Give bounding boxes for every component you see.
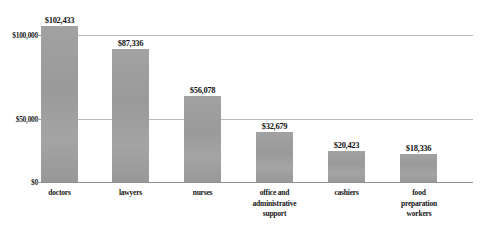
x-axis-label-line: doctors xyxy=(29,188,90,199)
x-axis-label-line: cashiers xyxy=(316,188,377,199)
x-axis-label-line: lawyers xyxy=(100,188,161,199)
y-axis-tick-0 xyxy=(35,182,41,183)
bar-food-preparation-workers[interactable] xyxy=(400,154,437,182)
bar-value-nurses: $56,078 xyxy=(172,85,233,95)
bar-chart: $100,000 $50,000 $0 $102,433 $87,336 $56… xyxy=(0,0,481,228)
bar-cashiers[interactable] xyxy=(328,151,365,182)
x-axis-label-food-preparation-workers: food preparation workers xyxy=(383,188,455,220)
bar-lawyers[interactable] xyxy=(112,49,149,182)
x-axis-label-line: food xyxy=(383,188,455,199)
y-axis-tick-label-50000: $50,000 xyxy=(0,115,38,124)
y-axis-tick-label-0: $0 xyxy=(0,178,38,187)
y-axis-tick-label-100000: $100,000 xyxy=(0,31,38,40)
x-axis-label-line: workers xyxy=(383,209,455,220)
x-axis-label-line: administrative xyxy=(237,199,312,210)
x-axis-label-line: office and xyxy=(237,188,312,199)
x-axis-line xyxy=(37,182,473,183)
bar-value-cashiers: $20,423 xyxy=(316,140,377,150)
plot-area: $102,433 $87,336 $56,078 $32,679 $20,423… xyxy=(41,14,473,182)
clipped-text-artifact xyxy=(0,0,481,9)
bar-value-food-preparation-workers: $18,336 xyxy=(388,143,449,153)
bar-office-and-administrative-support[interactable] xyxy=(256,132,293,182)
bar-value-lawyers: $87,336 xyxy=(100,38,161,48)
gridline-100000 xyxy=(41,35,473,36)
x-axis-label-lawyers: lawyers xyxy=(100,188,161,199)
x-axis-label-nurses: nurses xyxy=(172,188,233,199)
x-axis-label-cashiers: cashiers xyxy=(316,188,377,199)
bar-doctors[interactable] xyxy=(41,26,78,182)
x-axis-label-office-and-administrative-support: office and administrative support xyxy=(237,188,312,220)
x-axis-label-doctors: doctors xyxy=(29,188,90,199)
bar-value-office-and-administrative-support: $32,679 xyxy=(244,121,305,131)
x-axis-label-line: preparation xyxy=(383,199,455,210)
gridline-50000 xyxy=(41,119,473,120)
bar-value-doctors: $102,433 xyxy=(29,15,90,25)
x-axis-label-line: support xyxy=(237,209,312,220)
bar-nurses[interactable] xyxy=(184,96,221,182)
x-axis-label-line: nurses xyxy=(172,188,233,199)
